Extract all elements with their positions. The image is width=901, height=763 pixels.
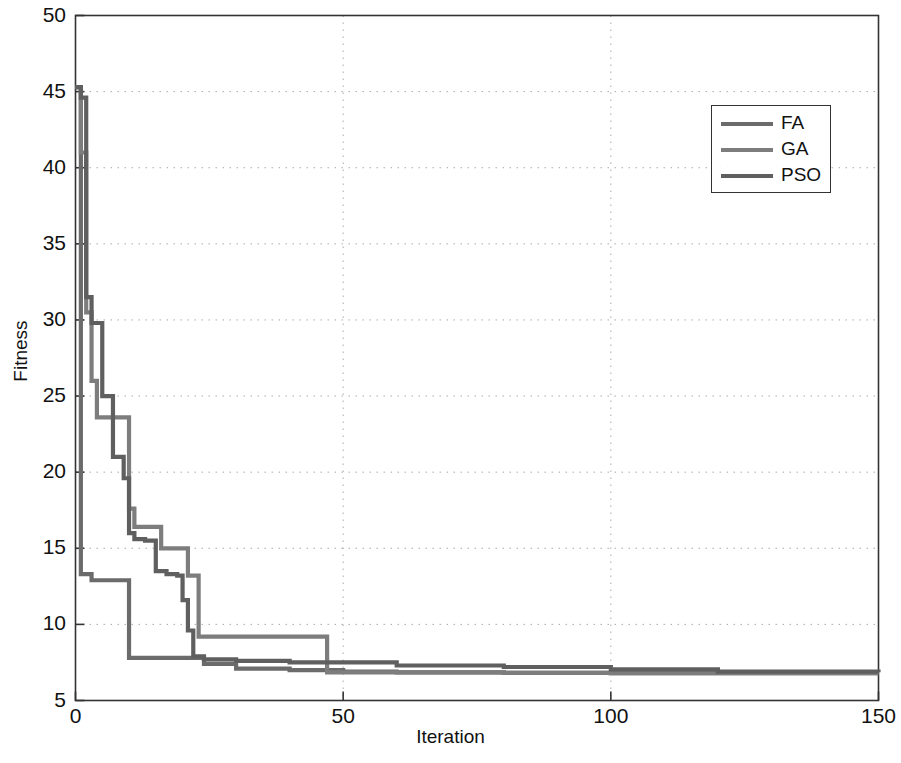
legend-swatch-pso bbox=[721, 174, 773, 178]
y-tick-label: 45 bbox=[6, 79, 66, 103]
y-tick-label: 40 bbox=[6, 155, 66, 179]
y-axis-label: Fitness bbox=[10, 306, 32, 396]
y-tick-label: 10 bbox=[6, 611, 66, 635]
y-tick-label: 35 bbox=[6, 231, 66, 255]
legend-item-fa: FA bbox=[721, 111, 827, 137]
legend-swatch-fa bbox=[721, 122, 773, 126]
legend-label-pso: PSO bbox=[781, 163, 821, 187]
x-tick-label: 50 bbox=[303, 704, 383, 728]
legend-label-ga: GA bbox=[781, 137, 808, 161]
x-axis-label: Iteration bbox=[0, 726, 901, 748]
legend-item-ga: GA bbox=[721, 137, 827, 163]
y-tick-label: 50 bbox=[6, 3, 66, 27]
x-tick-label: 150 bbox=[839, 704, 901, 728]
y-tick-label: 20 bbox=[6, 459, 66, 483]
legend-swatch-ga bbox=[721, 148, 773, 152]
x-tick-label: 0 bbox=[36, 704, 116, 728]
legend-item-pso: PSO bbox=[721, 163, 827, 189]
chart-legend: FA GA PSO bbox=[711, 105, 831, 193]
legend-label-fa: FA bbox=[781, 111, 804, 135]
y-tick-label: 15 bbox=[6, 535, 66, 559]
x-tick-label: 100 bbox=[571, 704, 651, 728]
chart-figure: 5101520253035404550 050100150 Fitness It… bbox=[0, 0, 901, 763]
